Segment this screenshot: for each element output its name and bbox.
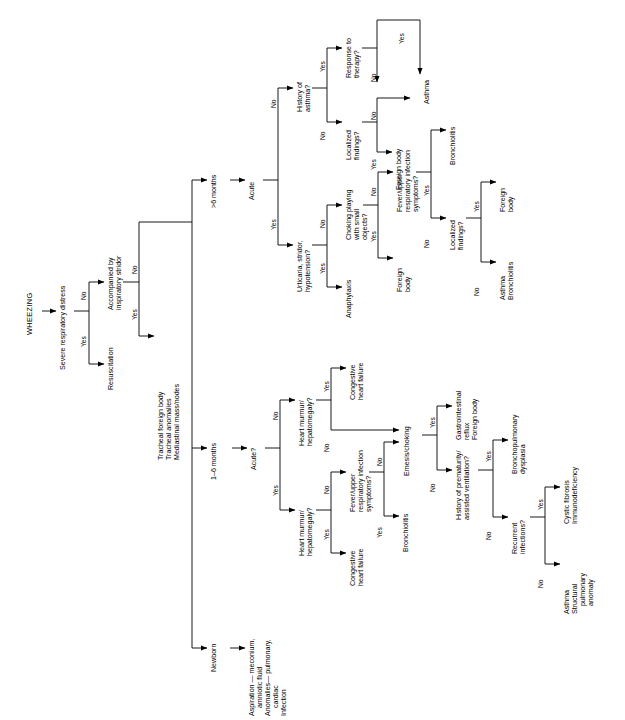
edge-label-heart-yes-yes: Yes [323, 529, 330, 540]
terminal-foreign-body-3: Foreign body [500, 188, 516, 212]
node-localized-findings-lower: Localized findings? [450, 220, 466, 250]
terminal-foreign-body-1: Foreign body [397, 268, 413, 292]
node-localized-findings-upper: Localized findings? [346, 130, 362, 160]
edge-label-heart-no-no: No [323, 444, 330, 452]
terminal-foreign-body-top: Foreign body [396, 149, 404, 190]
edge-label-acute-mid-yes: Yes [272, 485, 279, 496]
terminal-newborn-causes: Aspiration — meconium, amniotic fluid An… [249, 639, 289, 716]
terminal-cystic-fibrosis: Cystic fibrosis Immunodeficiency [564, 467, 580, 524]
edge-label-response-yes: Yes [398, 33, 405, 44]
edge-label-fever-top-yes: Yes [423, 185, 430, 196]
terminal-anaphylaxis: Anaphylaxis [346, 280, 354, 318]
node-acute-top: Acute [249, 182, 257, 200]
node-history-of-asthma: History of asthma? [297, 82, 313, 112]
node-accompanied-by-inspiratory-stridor: Accompanied by inspiratory stridor [108, 256, 124, 310]
edge-label-urticaria-no: No [319, 220, 326, 228]
terminal-asthma-top: Asthma [424, 80, 432, 104]
edge-label-heart-yes-no: No [323, 486, 330, 494]
terminal-bronchiolitis-top: Bronchiolitis [450, 127, 458, 165]
terminal-tracheal-causes: Tracheal foreign body Tracheal anomalies… [158, 384, 182, 460]
edge-label-acute-mid-no: No [272, 412, 279, 420]
node-age-1-to-6-months: 1–6 months [211, 443, 219, 480]
edge-label-heart-no-yes: Yes [323, 381, 330, 392]
edge-label-emesis-yes: Yes [429, 417, 436, 428]
node-age-greater-6-months: >6 months [211, 175, 219, 208]
edge-label-urticaria-yes: Yes [319, 263, 326, 274]
terminal-bronchiolitis-mid: Bronchiolitis [403, 514, 411, 552]
node-recurrent-infections: Recurrent infections? [512, 520, 528, 554]
node-severe-respiratory-distress: Severe respiratory distress [60, 286, 68, 370]
edge-label-stridor-no: No [131, 266, 138, 274]
edge-label-severe-yes: Yes [80, 336, 87, 347]
node-emesis-choking: Emesis/choking [404, 426, 412, 476]
terminal-bronchopulmonary-dysplasia: Bronchopulmonary dysplasia [512, 414, 528, 474]
edge-label-acute-top-yes: Yes [270, 219, 277, 230]
node-urticaria-stridor-hypotension: Urticaria, stridor, hypotension? [297, 240, 313, 292]
edge-label-prematurity-no: No [485, 532, 492, 540]
node-age-newborn: Newborn [211, 644, 219, 672]
edge-label-localized2-yes: Yes [370, 159, 377, 170]
edge-label-fever-mid-yes: Yes [376, 527, 383, 538]
node-choking-small-objects: Choking playing with small objects? [346, 190, 370, 240]
terminal-chf-1: Congestive heart failure [350, 549, 366, 586]
edge-label-choking-yes: Yes [370, 231, 377, 242]
node-heart-murmur-hepatomegaly-yes-branch: Heart murmur/ hepatomegaly? [299, 507, 315, 556]
edge-label-recurrent-no: No [537, 580, 544, 588]
terminal-asthma-structural: Asthma Structural pulmonary anomaly [564, 573, 596, 614]
terminal-asthma-bronchiolitis: Asthma Bronchiolitis [500, 262, 516, 300]
node-heart-murmur-hepatomegaly-no-branch: Heart murmur/ hepatomegaly? [299, 397, 315, 446]
edge-label-localized2-no: No [370, 112, 377, 120]
edge-label-prematurity-yes: Yes [485, 451, 492, 462]
node-history-of-prematurity: History of prematurity/ assisted ventila… [456, 451, 472, 520]
edge-label-severe-no: No [80, 292, 87, 300]
wheezing-decision-tree: WHEEZING Severe respiratory distress Yes… [0, 0, 625, 720]
edge-label-localized-top-yes: Yes [473, 201, 480, 212]
node-fever-uri-symptoms-mid: Fever/upper respiratory infection sympto… [350, 450, 374, 512]
node-acute-mid: Acute? [251, 448, 259, 470]
edge-label-response-no: No [370, 74, 377, 82]
node-response-to-therapy: Response to therapy? [346, 38, 362, 78]
edge-label-stridor-yes: Yes [131, 309, 138, 320]
edge-label-emesis-no: No [429, 484, 436, 492]
terminal-chf-2: Congestive heart failure [350, 363, 366, 400]
edge-label-recurrent-yes: Yes [537, 499, 544, 510]
edge-label-fever-top-no: No [423, 240, 430, 248]
edge-label-fever-mid-no: No [376, 458, 383, 466]
edge-label-hx-asthma-yes: Yes [319, 61, 326, 72]
terminal-gerd-foreign-body: Gastrointestinal reflux Foreign body [456, 391, 480, 440]
node-root: WHEEZING [26, 292, 34, 335]
terminal-resuscitation: Resuscitation [108, 347, 116, 390]
edge-label-localized-top-no: No [473, 288, 480, 296]
edge-label-hx-asthma-no: No [319, 132, 326, 140]
edge-label-choking-no: No [370, 188, 377, 196]
edge-label-acute-top-no: No [270, 100, 277, 108]
